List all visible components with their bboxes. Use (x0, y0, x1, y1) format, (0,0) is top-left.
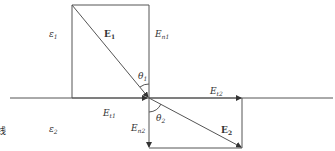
theta1-label: θ1 (138, 71, 147, 82)
en2-label: En2 (130, 123, 145, 134)
edge-cjk-text: 线 (0, 125, 6, 136)
theta2-label: θ2 (156, 113, 165, 124)
e1-label: E1 (104, 29, 115, 40)
et2-label: Et2 (209, 86, 223, 97)
epsilon1-label: ε1 (49, 29, 58, 40)
e1-vector-arrow (72, 5, 148, 97)
et1-label: Et1 (102, 108, 116, 119)
e2-label: E2 (221, 125, 232, 136)
epsilon2-label: ε2 (49, 124, 58, 135)
theta1-arc (140, 84, 149, 87)
theta2-arc (149, 104, 161, 112)
en1-label: En1 (154, 29, 169, 40)
field-boundary-diagram: ε1 ε2 E1 En1 θ1 Et1 Et2 θ2 En2 E2 线 (0, 0, 335, 151)
